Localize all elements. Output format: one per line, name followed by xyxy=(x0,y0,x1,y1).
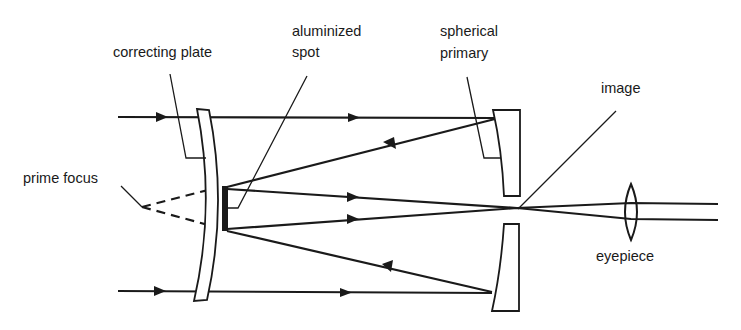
aluminized-spot-label-line2: spot xyxy=(292,44,319,61)
aluminized-spot-leader xyxy=(226,76,307,208)
spherical-primary-label-line2: primary xyxy=(440,45,488,62)
lower-converging-ray xyxy=(227,208,718,229)
lower-incoming-ray xyxy=(118,286,492,297)
upper-incoming-ray xyxy=(118,112,495,122)
image-label: image xyxy=(601,80,641,97)
prime-focus-label: prime focus xyxy=(23,170,98,187)
eyepiece-label: eyepiece xyxy=(596,248,654,265)
spherical-primary-label-line1: spherical xyxy=(440,23,498,40)
telescope-diagram xyxy=(0,0,741,330)
aluminized-spot-label-line1: aluminized xyxy=(292,23,361,40)
correcting-plate xyxy=(194,109,218,301)
leader-lines xyxy=(121,74,616,209)
spherical-primary-lower xyxy=(492,224,519,311)
prime-focus-dashes xyxy=(142,189,212,226)
eyepiece-lens xyxy=(625,184,637,240)
lower-reflected-ray xyxy=(227,231,492,292)
correcting-plate-label: correcting plate xyxy=(113,44,212,61)
image-leader xyxy=(518,111,616,209)
spherical-primary-upper xyxy=(493,110,520,196)
prime-focus-leader xyxy=(121,186,142,207)
upper-converging-ray xyxy=(227,189,718,208)
